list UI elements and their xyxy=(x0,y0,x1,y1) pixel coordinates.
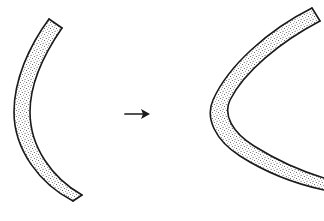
line-drawing-svg xyxy=(0,0,324,221)
transform-arrow xyxy=(125,109,150,119)
figure-canvas xyxy=(0,0,324,221)
